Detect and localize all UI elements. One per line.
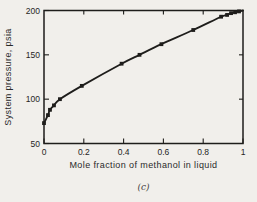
data-point-marker — [191, 28, 195, 32]
data-point-marker — [233, 10, 237, 14]
x-tick-label: 0.6 — [157, 147, 169, 157]
data-point-marker — [80, 84, 84, 88]
y-tick-label: 200 — [26, 6, 40, 16]
y-axis-title: System pressure, psia — [3, 28, 13, 125]
data-curve — [44, 11, 243, 124]
plot-area: 00.20.40.60.8150100150200 — [26, 6, 246, 157]
subfigure-caption: (c) — [137, 182, 150, 192]
plot-frame — [44, 11, 243, 144]
data-point-marker — [58, 97, 62, 101]
x-tick-label: 0 — [42, 147, 47, 157]
data-point-marker — [225, 13, 229, 17]
data-point-marker — [120, 62, 124, 66]
data-point-marker — [52, 103, 56, 107]
y-tick-label: 100 — [26, 94, 40, 104]
vle-pressure-figure: 00.20.40.60.8150100150200 System pressur… — [0, 0, 257, 202]
x-tick-label: 0.4 — [118, 147, 130, 157]
data-point-marker — [219, 15, 223, 19]
x-tick-label: 0.2 — [78, 147, 90, 157]
data-point-marker — [48, 108, 52, 112]
data-point-marker — [138, 53, 142, 57]
data-point-marker — [229, 11, 233, 15]
x-tick-label: 0.8 — [197, 147, 209, 157]
data-point-marker — [46, 113, 50, 117]
x-axis-title: Mole fraction of methanol in liquid — [69, 160, 217, 170]
y-tick-label: 150 — [26, 50, 40, 60]
x-tick-label: 1 — [241, 147, 246, 157]
data-point-marker — [237, 9, 241, 13]
data-point-marker — [160, 42, 164, 46]
chart-canvas: 00.20.40.60.8150100150200 System pressur… — [0, 0, 257, 202]
y-tick-label: 50 — [31, 139, 41, 149]
data-point-marker — [42, 121, 46, 125]
